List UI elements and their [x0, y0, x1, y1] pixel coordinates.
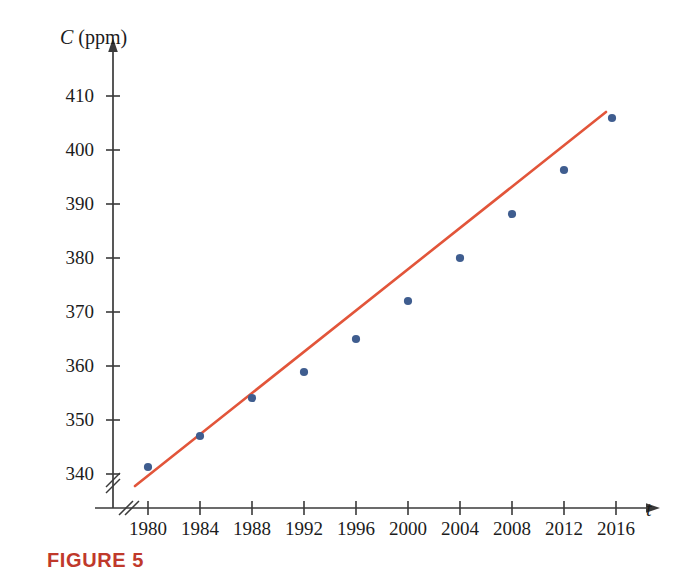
- x-tick-label-2004: 2004: [432, 518, 488, 540]
- y-axis-unit: (ppm): [78, 26, 127, 48]
- data-point: [508, 210, 516, 218]
- data-point: [248, 394, 256, 402]
- regression-line: [135, 112, 606, 486]
- y-tick-label-400: 400: [46, 139, 94, 161]
- x-tick-label-2012: 2012: [536, 518, 592, 540]
- scatter-plot: [0, 0, 681, 567]
- x-tick-label-1980: 1980: [120, 518, 176, 540]
- data-point: [456, 254, 464, 262]
- x-tick-label-2000: 2000: [380, 518, 436, 540]
- data-point: [300, 368, 308, 376]
- x-axis: [95, 503, 660, 513]
- x-axis-title: t: [646, 498, 652, 521]
- y-tick-label-340: 340: [46, 463, 94, 485]
- y-tick-label-410: 410: [46, 85, 94, 107]
- data-point: [352, 335, 360, 343]
- data-point: [196, 432, 204, 440]
- figure-container: C (ppm) t 340 350 360 370 380 390 400 41…: [0, 0, 681, 567]
- data-point: [404, 297, 412, 305]
- y-tick-label-360: 360: [46, 355, 94, 377]
- x-tick-label-2008: 2008: [484, 518, 540, 540]
- y-tick-label-380: 380: [46, 247, 94, 269]
- x-tick-label-1984: 1984: [172, 518, 228, 540]
- figure-caption: FIGURE 5: [47, 549, 144, 567]
- data-point: [144, 463, 152, 471]
- x-tick-label-1992: 1992: [276, 518, 332, 540]
- x-tick-label-2016: 2016: [588, 518, 644, 540]
- y-tick-label-390: 390: [46, 193, 94, 215]
- data-point: [608, 114, 616, 122]
- y-tick-label-350: 350: [46, 409, 94, 431]
- y-axis: [108, 38, 118, 508]
- y-axis-variable: C: [60, 26, 73, 48]
- data-point: [560, 166, 568, 174]
- y-tick-label-370: 370: [46, 301, 94, 323]
- x-tick-label-1988: 1988: [224, 518, 280, 540]
- y-axis-title: C (ppm): [60, 26, 127, 49]
- x-tick-label-1996: 1996: [328, 518, 384, 540]
